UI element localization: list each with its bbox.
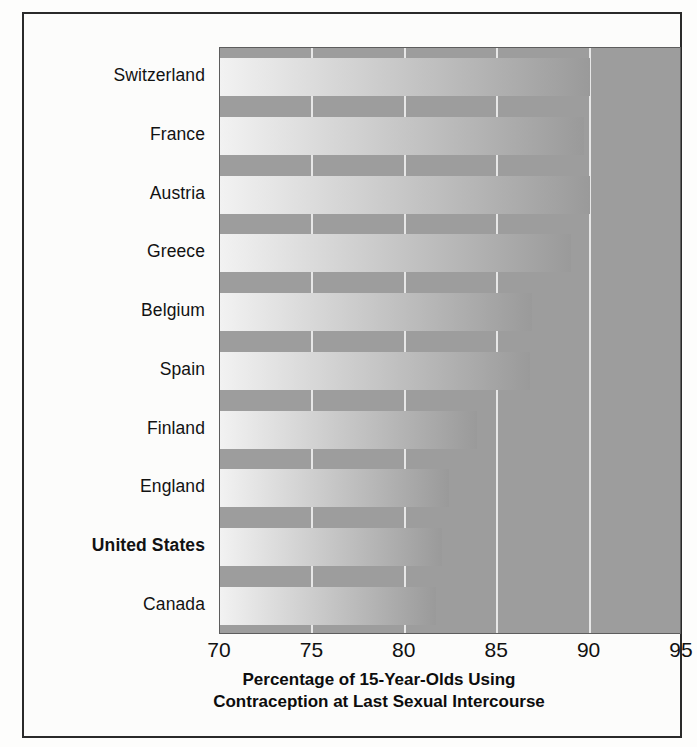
category-label-france: France [45,124,205,145]
bar-row [220,400,680,459]
category-label-finland: Finland [45,418,205,439]
value-axis-ticks: 707580859095 [219,634,681,664]
bar-row [220,576,680,634]
category-label-switzerland: Switzerland [45,65,205,86]
plot-area [219,47,681,634]
bar-row [220,224,680,283]
category-label-england: England [45,476,205,497]
bar-row [220,518,680,577]
bar-row [220,283,680,342]
x-axis-title-line-2: Contraception at Last Sexual Intercourse [84,691,674,713]
bar-row [220,48,680,107]
category-label-austria: Austria [45,183,205,204]
x-tick-label-70: 70 [207,638,230,662]
bar-row [220,165,680,224]
bar-switzerland [220,58,590,96]
bar-france [220,117,584,155]
bars-layer [220,48,680,633]
x-tick-label-85: 85 [485,638,508,662]
bar-england [220,469,449,507]
category-axis-labels: SwitzerlandFranceAustriaGreeceBelgiumSpa… [46,47,212,634]
bar-canada [220,587,436,625]
x-axis-title-line-1: Percentage of 15-Year-Olds Using [84,669,674,691]
bar-austria [220,176,590,214]
bar-row [220,107,680,166]
x-tick-label-75: 75 [300,638,323,662]
category-label-greece: Greece [45,241,205,262]
chart-figure: SwitzerlandFranceAustriaGreeceBelgiumSpa… [0,0,697,747]
figure-border: SwitzerlandFranceAustriaGreeceBelgiumSpa… [22,12,682,738]
x-tick-label-95: 95 [669,638,692,662]
category-label-belgium: Belgium [45,300,205,321]
bar-finland [220,411,477,449]
x-tick-label-90: 90 [577,638,600,662]
category-label-canada: Canada [45,594,205,615]
bar-spain [220,352,530,390]
bar-greece [220,234,571,272]
bar-belgium [220,293,532,331]
category-label-united-states: United States [45,535,205,556]
bar-row [220,459,680,518]
x-axis-title: Percentage of 15-Year-Olds Using Contrac… [84,669,674,714]
x-tick-label-80: 80 [392,638,415,662]
bar-united-states [220,528,442,566]
bar-row [220,342,680,401]
category-label-spain: Spain [45,359,205,380]
